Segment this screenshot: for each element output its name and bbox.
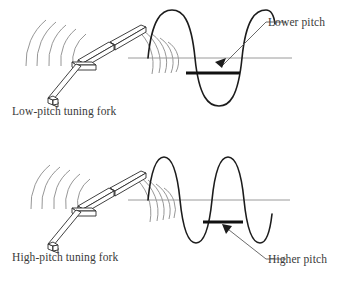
high-pitch-panel xyxy=(31,157,290,259)
high-pitch-fork-label: High-pitch tuning fork xyxy=(12,251,118,263)
arrow-pointer-icon-low xyxy=(215,58,226,68)
arrow-pointer-icon-high xyxy=(222,224,232,234)
sound-wave-arc-icon-left-low xyxy=(26,20,86,66)
tuning-fork-pitch-figure: Low-pitch tuning fork Lower pitch High-p… xyxy=(0,0,361,281)
sound-wave-arc-icon-left-high xyxy=(31,165,90,209)
leader-line-lower-pitch xyxy=(215,22,286,68)
figure-canvas xyxy=(0,0,361,281)
higher-pitch-annotation-label: Higher pitch xyxy=(268,253,327,265)
tuning-fork-icon-high xyxy=(48,171,146,253)
tuning-fork-icon-low xyxy=(48,25,146,107)
low-pitch-fork-label: Low-pitch tuning fork xyxy=(12,105,116,117)
sound-wave-arc-icon-right-low xyxy=(136,29,179,74)
low-pitch-panel xyxy=(26,10,292,107)
lower-pitch-annotation-label: Lower pitch xyxy=(268,16,325,28)
